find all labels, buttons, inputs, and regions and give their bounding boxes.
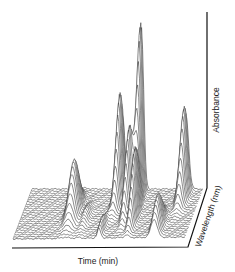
y-axis-label: Absorbance <box>211 87 221 133</box>
x-axis-label: Time (min) <box>78 256 118 266</box>
chromatogram-3d-plot: Time (min) Absorbance Wavelength (nm) <box>0 0 235 272</box>
peaks-group <box>13 23 203 241</box>
